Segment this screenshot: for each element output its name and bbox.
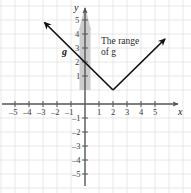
- ytick-label--1: –1: [72, 114, 81, 123]
- xtick-label-5: 5: [153, 108, 157, 117]
- ytick-label--3: –3: [72, 142, 81, 151]
- ytick-label-2: 2: [75, 58, 79, 67]
- grid-lines: [0, 0, 191, 193]
- ytick-label-4: 4: [75, 30, 79, 39]
- xtick-label--4: –4: [23, 108, 32, 117]
- ytick-label--4: –4: [72, 156, 81, 165]
- range-annotation-line1: The range: [101, 36, 139, 47]
- ytick-label-5: 5: [75, 16, 79, 25]
- coordinate-plane: [0, 0, 191, 193]
- curve-label-g: g: [62, 46, 67, 57]
- y-axis-label: y: [74, 2, 78, 13]
- ytick-label-3: 3: [75, 44, 79, 53]
- xtick-label--3: –3: [37, 108, 46, 117]
- ytick-label--5: –5: [72, 170, 81, 179]
- xtick-label-4: 4: [139, 108, 143, 117]
- ytick-label-1: 1: [76, 72, 80, 81]
- graph-figure: –5 –4 –3 –2 –1 1 2 3 4 5 5 4 3 2 1 –1 –2…: [0, 0, 191, 193]
- range-annotation-line2: of g: [101, 47, 116, 58]
- ytick-label--2: –2: [72, 128, 81, 137]
- xtick-label-3: 3: [125, 108, 129, 117]
- xtick-label--5: –5: [9, 108, 18, 117]
- x-axis-label: x: [178, 106, 182, 117]
- xtick-label-2: 2: [111, 108, 115, 117]
- xtick-label--2: –2: [51, 108, 60, 117]
- xtick-label-1: 1: [97, 108, 101, 117]
